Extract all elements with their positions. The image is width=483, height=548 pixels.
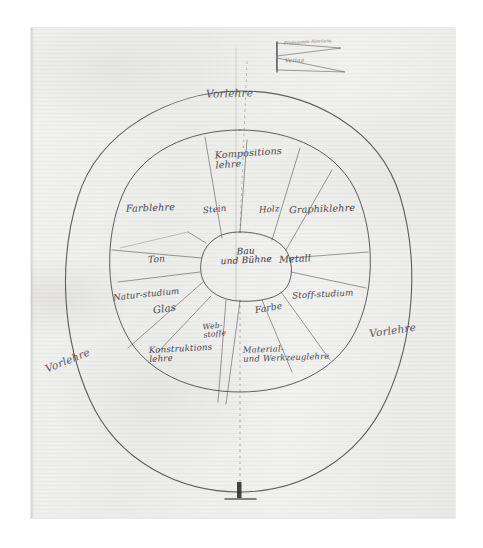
- middle-ring-label-material-werkzeuglehre: Material- und Werkzeuglehre: [243, 342, 348, 363]
- paper-sheet: [31, 28, 455, 518]
- konstruktionslehre-line2: lehre: [149, 353, 173, 364]
- outer-ring-label-top: Vorlehre: [206, 87, 253, 99]
- spoke-label-metall: Metall: [279, 253, 312, 265]
- flag-line2-label: Verlag: [285, 58, 304, 64]
- paper-grain-texture: [31, 28, 455, 518]
- kompositionslehre-line2: lehre: [215, 158, 242, 171]
- paper-left-edge-shadow: [31, 28, 34, 518]
- middle-ring-label-farblehre: Farblehre: [126, 202, 175, 214]
- core-line2: und Bühne: [220, 254, 272, 267]
- core-label-bau-und-buehne: Bau und Bühne: [211, 245, 282, 268]
- sketch-page: .ink { fill:none; stroke:#3a3a3e; stroke…: [0, 0, 483, 548]
- spoke-label-webstoffe: Web- stoffe: [202, 321, 232, 340]
- spoke-label-holz: Holz: [259, 204, 280, 214]
- spoke-label-ton: Ton: [148, 254, 166, 265]
